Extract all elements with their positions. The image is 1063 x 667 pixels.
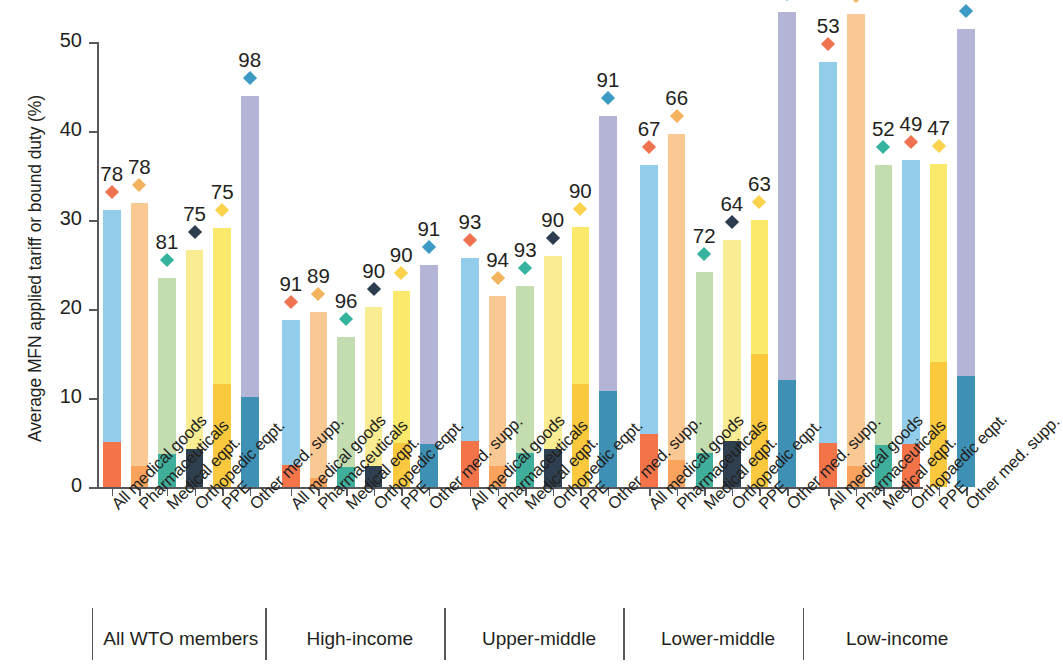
- binding-coverage-marker: [780, 0, 794, 1]
- y-axis-tick-label: 10: [22, 385, 82, 408]
- binding-coverage-label: 54: [944, 0, 988, 5]
- y-axis-tick-mark: [89, 487, 98, 489]
- y-axis-tick-mark: [89, 398, 98, 400]
- binding-coverage-label: 78: [117, 155, 161, 179]
- bar-column: [131, 42, 149, 487]
- binding-coverage-label: 91: [586, 68, 630, 92]
- y-axis-title: Average MFN applied tariff or bound duty…: [25, 34, 46, 504]
- y-axis-tick-label: 50: [22, 29, 82, 52]
- binding-coverage-label: 93: [448, 210, 492, 234]
- y-axis-tick-label: 40: [22, 118, 82, 141]
- binding-coverage-marker: [959, 4, 973, 18]
- bar-column: [957, 42, 975, 487]
- bar-column: [103, 42, 121, 487]
- bar-column: [819, 42, 837, 487]
- binding-coverage-label: 75: [200, 180, 244, 204]
- x-axis-category-label: Other med. supp.: [962, 412, 1063, 513]
- bar-column: [599, 42, 617, 487]
- group-label: Low-income: [787, 628, 1007, 650]
- binding-coverage-label: 53: [806, 14, 850, 38]
- binding-coverage-label: 91: [407, 217, 451, 241]
- bar-applied-tariff: [103, 442, 121, 487]
- bar-column: [420, 42, 438, 487]
- y-axis-tick-label: 30: [22, 207, 82, 230]
- binding-coverage-label: 96: [324, 289, 368, 313]
- y-axis-tick-mark: [89, 309, 98, 311]
- bar-bound-duty: [819, 62, 837, 487]
- y-axis-tick-label: 20: [22, 296, 82, 319]
- binding-coverage-label: 75: [173, 202, 217, 226]
- binding-coverage-label: 72: [682, 224, 726, 248]
- binding-coverage-label: 66: [655, 86, 699, 110]
- bar-bound-duty: [847, 14, 865, 487]
- y-axis-tick-label: 0: [22, 474, 82, 497]
- binding-coverage-label: 47: [917, 116, 961, 140]
- binding-coverage-label: 67: [627, 117, 671, 141]
- binding-coverage-label: 63: [737, 172, 781, 196]
- binding-coverage-label: 93: [503, 238, 547, 262]
- group-separator: [92, 608, 93, 660]
- bar-column: [241, 42, 259, 487]
- y-axis-tick-mark: [89, 220, 98, 222]
- binding-coverage-label: 90: [558, 179, 602, 203]
- binding-coverage-label: 81: [145, 230, 189, 254]
- binding-coverage-label: 89: [296, 264, 340, 288]
- binding-coverage-label: 90: [379, 243, 423, 267]
- binding-coverage-label: 90: [531, 208, 575, 232]
- binding-coverage-label: 98: [228, 48, 272, 72]
- y-axis-tick-mark: [89, 131, 98, 133]
- bar-column: [778, 42, 796, 487]
- binding-coverage-marker: [849, 0, 863, 3]
- y-axis-tick-mark: [89, 42, 98, 44]
